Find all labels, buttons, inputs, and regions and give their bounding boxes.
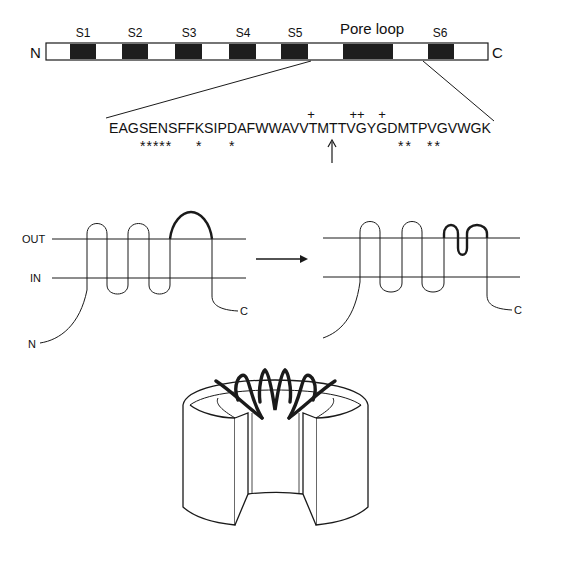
- star-marks-4: **: [398, 138, 413, 154]
- channel-wall-left: [183, 405, 235, 525]
- segment-label-s6: S6: [433, 26, 448, 40]
- topology-diagram-left: OUT IN N C: [22, 212, 248, 350]
- out-label: OUT: [22, 233, 46, 245]
- linear-domain-map: S1 S2 S3 S4 S5 Pore loop S6 N C: [30, 20, 503, 121]
- mutation-arrow-icon: [328, 140, 336, 163]
- channel-3d-illustration: [183, 370, 368, 525]
- segment-s1: [70, 44, 96, 59]
- n-terminus-label: N: [30, 44, 41, 61]
- star-marks-3: *: [229, 138, 235, 154]
- zoom-line-right: [423, 61, 494, 121]
- segment-label-pore-loop: Pore loop: [340, 20, 404, 37]
- n-terminus-label-left: N: [28, 338, 36, 350]
- segment-s6: [428, 44, 454, 59]
- star-marks-1: *****: [140, 138, 172, 154]
- amino-acid-sequence: EAGSENSFFKSIPDAFWWAVVTMTTVGYGDMTPVGVWGK: [109, 120, 492, 136]
- segment-s5: [281, 44, 308, 59]
- zoom-line-left: [106, 61, 311, 118]
- segment-pore-loop: [343, 44, 393, 59]
- in-label: IN: [30, 272, 41, 284]
- star-marks-5: **: [427, 138, 442, 154]
- segment-s3: [175, 44, 202, 59]
- pore-loop-extended: [170, 212, 212, 239]
- protein-bar: [46, 43, 488, 60]
- transition-arrow-icon: [256, 255, 308, 263]
- segment-label-s2: S2: [128, 26, 143, 40]
- transmembrane-chain-right: [323, 222, 512, 339]
- segment-label-s3: S3: [182, 26, 197, 40]
- c-terminus-label-right: C: [514, 304, 522, 316]
- c-terminus-label: C: [492, 44, 503, 61]
- star-marks-2: *: [196, 138, 202, 154]
- segment-s4: [229, 44, 256, 59]
- segment-label-s5: S5: [288, 26, 303, 40]
- topology-diagram-right: C: [323, 222, 522, 339]
- c-terminus-label-left: C: [240, 305, 248, 317]
- pore-loops: [216, 370, 335, 418]
- segment-s2: [122, 44, 148, 59]
- segment-label-s4: S4: [236, 26, 251, 40]
- pore-loop-inserted: [444, 225, 487, 255]
- channel-wall-right: [316, 405, 368, 525]
- transmembrane-chain: [40, 224, 238, 344]
- segment-label-s1: S1: [76, 26, 91, 40]
- sequence-block: + ++ + EAGSENSFFKSIPDAFWWAVVTMTTVGYGDMTP…: [109, 107, 492, 163]
- potassium-channel-figure: S1 S2 S3 S4 S5 Pore loop S6 N C + ++ + E…: [0, 0, 561, 564]
